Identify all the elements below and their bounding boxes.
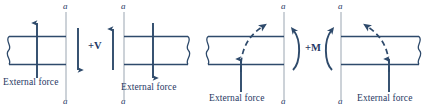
deflection-curve-dashed — [241, 27, 262, 72]
beam-break-squiggle — [7, 37, 10, 65]
section-label-bottom-panel3: a — [281, 97, 286, 106]
beam-break-squiggle — [418, 37, 421, 65]
internal-moment-arc-cw — [326, 31, 332, 70]
external-force-label-panel4: External force — [357, 94, 412, 104]
deflection-curve-dashed — [368, 27, 389, 72]
external-force-label-panel3: External force — [209, 94, 264, 104]
internal-moment-arc-ccw — [293, 31, 299, 70]
positive-shear-label: +V — [88, 41, 102, 52]
section-label-bottom-panel1: a — [63, 97, 68, 106]
section-label-top-panel1: a — [63, 2, 68, 11]
positive-moment-label: +M — [305, 43, 321, 54]
beam-break-squiggle — [187, 37, 190, 65]
section-label-top-panel2: a — [121, 2, 126, 11]
beam-break-squiggle — [206, 37, 209, 65]
external-force-label-panel2: External force — [121, 83, 176, 93]
section-label-bottom-panel2: a — [121, 97, 126, 106]
section-label-top-panel4: a — [338, 2, 343, 11]
section-label-top-panel3: a — [281, 2, 286, 11]
section-label-bottom-panel4: a — [338, 97, 343, 106]
beam-sign-convention-figure: a a External force +V a a External force… — [0, 0, 432, 110]
panel-moment-right — [326, 12, 421, 100]
panel-moment-left — [206, 12, 299, 100]
external-force-label-panel1: External force — [3, 78, 58, 88]
